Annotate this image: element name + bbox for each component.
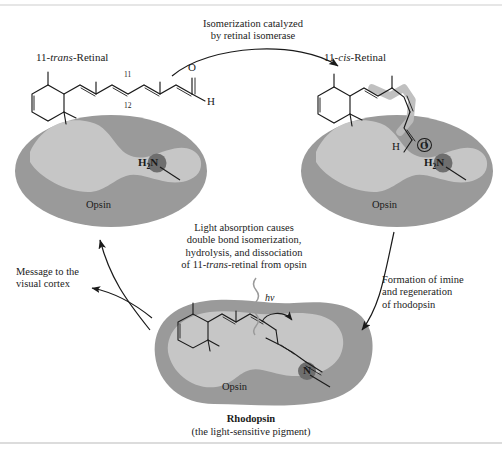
amine-label-left: H2N bbox=[138, 156, 158, 171]
rhodopsin-title: Rhodopsin bbox=[186, 413, 316, 425]
photon-label: hν bbox=[265, 292, 274, 303]
atom-hydrogen-cis: H bbox=[392, 140, 400, 152]
isomerization-caption: Isomerization catalyzed by retinal isome… bbox=[176, 18, 330, 43]
carbon-number-12: 12 bbox=[124, 101, 132, 110]
caption-line-4: of 11-trans-retinal from opsin bbox=[146, 259, 342, 271]
atom-oxygen-trans: O bbox=[188, 61, 196, 73]
label-cis-retinal: 11-cis-Retinal bbox=[324, 51, 386, 64]
opsin-label-right: Opsin bbox=[372, 199, 397, 211]
rhodopsin-subtitle: (the light-sensitive pigment) bbox=[166, 426, 336, 438]
opsin-label-left: Opsin bbox=[86, 199, 111, 211]
label-trans-retinal: 11-trans-Retinal bbox=[36, 51, 108, 64]
opsin-label-bottom: Opsin bbox=[222, 381, 247, 393]
atom-hydrogen-trans: H bbox=[207, 95, 215, 107]
imine-nitrogen-label: N bbox=[303, 364, 311, 376]
figure-canvas: Isomerization catalyzed by retinal isome… bbox=[0, 0, 502, 457]
dissociation-arrow bbox=[100, 240, 150, 330]
amine-label-right: H2N bbox=[424, 156, 444, 171]
visual-cortex-caption: Message to the visual cortex bbox=[16, 266, 96, 291]
rhodopsin-blob bbox=[155, 300, 373, 406]
isomerization-arrow bbox=[172, 49, 338, 76]
light-absorption-caption: Light absorption causes double bond isom… bbox=[146, 222, 342, 272]
carbon-number-11: 11 bbox=[124, 70, 131, 79]
imine-formation-caption: Formation of imine and regeneration of r… bbox=[382, 274, 494, 311]
atom-oxygen-cis: O bbox=[417, 138, 432, 152]
